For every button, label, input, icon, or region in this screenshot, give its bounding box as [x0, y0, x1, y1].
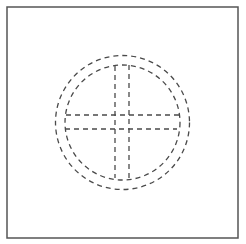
vertical-dashed-lines — [115, 65, 129, 180]
outer-dashed-circle — [56, 56, 190, 190]
diagram-canvas — [0, 0, 246, 244]
inner-dashed-circle — [65, 65, 180, 180]
square-frame — [7, 7, 238, 238]
horizontal-dashed-lines — [65, 115, 180, 129]
